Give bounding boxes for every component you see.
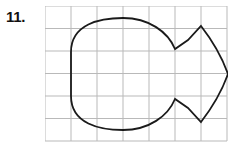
figure-grid-container bbox=[45, 6, 228, 143]
problem-number-label: 11. bbox=[6, 9, 25, 24]
fish-figure-svg bbox=[45, 6, 228, 143]
worksheet-figure-panel: 11. bbox=[0, 0, 235, 150]
